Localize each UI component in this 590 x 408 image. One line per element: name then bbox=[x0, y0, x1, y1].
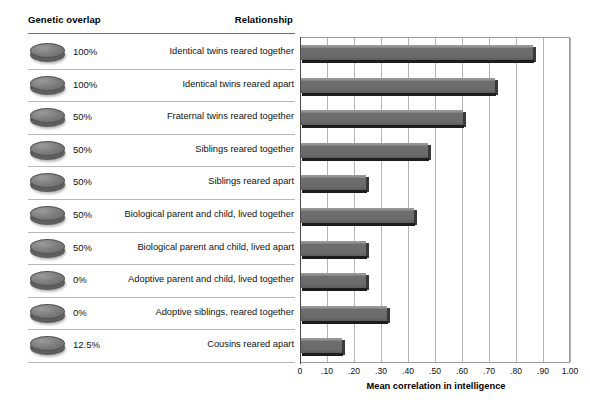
bar-row bbox=[300, 200, 590, 233]
x-axis-ticks: 0.10.20.30.40.50.60.70.80.901.00 bbox=[300, 364, 590, 380]
relationship-label: Fraternal twins reared together bbox=[167, 111, 294, 121]
genetic-overlap-disc-icon bbox=[30, 76, 66, 97]
relationship-label: Identical twins reared together bbox=[169, 46, 294, 56]
genetic-overlap-value: 50% bbox=[73, 209, 92, 220]
bar bbox=[301, 208, 414, 223]
disc-top bbox=[30, 76, 65, 91]
table-row: 50%Biological parent and child, lived ap… bbox=[0, 233, 300, 266]
bar-row bbox=[300, 102, 590, 135]
x-tick-label: .90 bbox=[537, 366, 549, 376]
table-row: 12.5%Cousins reared apart bbox=[0, 330, 300, 363]
relationship-label: Siblings reared together bbox=[195, 144, 294, 154]
genetic-overlap-value: 50% bbox=[73, 176, 92, 187]
relationship-label: Adoptive parent and child, lived togethe… bbox=[128, 274, 294, 284]
bar bbox=[301, 110, 463, 125]
header-divider bbox=[28, 33, 295, 34]
genetic-overlap-disc-icon bbox=[30, 271, 66, 292]
table-column-headers: Genetic overlap Relationship bbox=[28, 14, 293, 34]
relationship-table: Genetic overlap Relationship 100%Identic… bbox=[0, 0, 300, 408]
bar-row bbox=[300, 233, 590, 266]
x-tick-label: .50 bbox=[429, 366, 441, 376]
row-divider bbox=[28, 362, 295, 363]
bar-row bbox=[300, 167, 590, 200]
x-tick-label: .70 bbox=[483, 366, 495, 376]
column-header-genetic-overlap: Genetic overlap bbox=[28, 14, 101, 25]
relationship-label: Biological parent and child, lived toget… bbox=[124, 209, 294, 219]
genetic-overlap-disc-icon bbox=[30, 141, 66, 162]
bar-row bbox=[300, 298, 590, 331]
disc-top bbox=[30, 206, 65, 221]
bar bbox=[301, 273, 366, 288]
genetic-overlap-disc-icon bbox=[30, 108, 66, 129]
genetic-overlap-disc-icon bbox=[30, 304, 66, 325]
bar bbox=[301, 45, 533, 60]
relationship-label: Identical twins reared apart bbox=[182, 79, 294, 89]
bar bbox=[301, 78, 495, 93]
bars-container bbox=[300, 37, 590, 363]
table-row: 100%Identical twins reared together bbox=[0, 37, 300, 70]
x-tick-label: .10 bbox=[321, 366, 333, 376]
bar-row bbox=[300, 37, 590, 70]
genetic-overlap-disc-icon bbox=[30, 43, 66, 64]
genetic-overlap-value: 100% bbox=[73, 46, 97, 57]
bar bbox=[301, 143, 428, 158]
genetic-overlap-value: 0% bbox=[73, 307, 87, 318]
x-tick-label: .80 bbox=[510, 366, 522, 376]
genetic-overlap-value: 12.5% bbox=[73, 339, 100, 350]
table-row: 50%Siblings reared apart bbox=[0, 167, 300, 200]
x-tick-label: .60 bbox=[456, 366, 468, 376]
table-row: 0%Adoptive parent and child, lived toget… bbox=[0, 265, 300, 298]
bar-row bbox=[300, 70, 590, 103]
table-row: 100%Identical twins reared apart bbox=[0, 70, 300, 103]
bar-row bbox=[300, 330, 590, 363]
heritability-bar-chart: Genetic overlap Relationship 100%Identic… bbox=[0, 0, 590, 408]
relationship-label: Biological parent and child, lived apart bbox=[137, 242, 294, 252]
x-tick-label: 0 bbox=[298, 366, 303, 376]
genetic-overlap-value: 50% bbox=[73, 144, 92, 155]
bar bbox=[301, 241, 366, 256]
x-tick-label: .20 bbox=[348, 366, 360, 376]
genetic-overlap-disc-icon bbox=[30, 173, 66, 194]
bar bbox=[301, 175, 366, 190]
x-tick-label: 1.00 bbox=[562, 366, 579, 376]
genetic-overlap-value: 100% bbox=[73, 79, 97, 90]
x-axis-title: Mean correlation in intelligence bbox=[300, 381, 572, 391]
table-rows: 100%Identical twins reared together100%I… bbox=[0, 37, 300, 363]
plot-panel: 0.10.20.30.40.50.60.70.80.901.00 Mean co… bbox=[300, 0, 590, 408]
disc-top bbox=[30, 239, 65, 254]
x-tick-label: .40 bbox=[402, 366, 414, 376]
disc-top bbox=[30, 304, 65, 319]
x-tick-label: .30 bbox=[375, 366, 387, 376]
bar-row bbox=[300, 265, 590, 298]
table-row: 0%Adoptive siblings, reared together bbox=[0, 298, 300, 331]
bar bbox=[301, 306, 387, 321]
disc-top bbox=[30, 141, 65, 156]
relationship-label: Siblings reared apart bbox=[208, 176, 294, 186]
table-row: 50%Siblings reared together bbox=[0, 135, 300, 168]
genetic-overlap-disc-icon bbox=[30, 336, 66, 357]
bar-row bbox=[300, 135, 590, 168]
genetic-overlap-value: 0% bbox=[73, 274, 87, 285]
relationship-label: Adoptive siblings, reared together bbox=[155, 307, 294, 317]
genetic-overlap-disc-icon bbox=[30, 206, 66, 227]
genetic-overlap-disc-icon bbox=[30, 239, 66, 260]
genetic-overlap-value: 50% bbox=[73, 242, 92, 253]
relationship-label: Cousins reared apart bbox=[207, 339, 294, 349]
table-row: 50%Biological parent and child, lived to… bbox=[0, 200, 300, 233]
bar bbox=[301, 338, 342, 353]
disc-top bbox=[30, 43, 65, 58]
column-header-relationship: Relationship bbox=[235, 14, 293, 25]
table-row: 50%Fraternal twins reared together bbox=[0, 102, 300, 135]
genetic-overlap-value: 50% bbox=[73, 111, 92, 122]
